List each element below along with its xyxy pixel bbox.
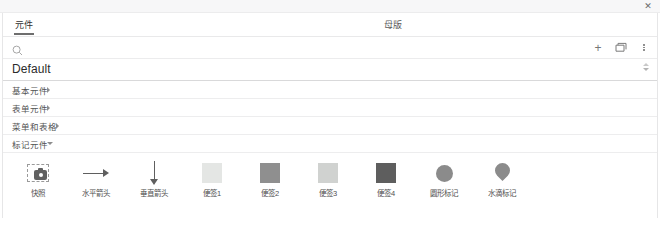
- sticky-note-icon: [197, 160, 227, 186]
- widget-sticky-note-4-label: 便签4: [377, 189, 395, 198]
- search-input[interactable]: [27, 40, 577, 55]
- widget-sticky-note-2-label: 便签2: [261, 189, 279, 198]
- more-dots: [643, 42, 645, 54]
- drop-marker-icon: [487, 160, 517, 186]
- category-forms[interactable]: 表单元件: [3, 99, 657, 117]
- arrow-right-icon: [81, 160, 111, 186]
- chevron-updown-icon[interactable]: [643, 63, 649, 71]
- tab-masters-label: 母版: [384, 20, 402, 30]
- category-menus-tables[interactable]: 菜单和表格: [3, 117, 657, 135]
- circle-marker-icon: [429, 160, 459, 186]
- component-library-window: ✕ 元件 母版 +: [0, 0, 660, 230]
- sticky-note-icon: [313, 160, 343, 186]
- plus-icon[interactable]: +: [591, 40, 605, 55]
- widget-drop-marker[interactable]: 水滴标记: [473, 160, 531, 208]
- search-icon: [12, 42, 23, 53]
- close-icon[interactable]: ✕: [641, 0, 655, 13]
- widget-sticky-note-4[interactable]: 便签4: [357, 160, 415, 208]
- chevron-down-icon: [47, 142, 53, 145]
- chevron-right-icon: [47, 105, 50, 111]
- more-vertical-icon[interactable]: [637, 40, 651, 55]
- tab-components[interactable]: 元件: [12, 16, 36, 34]
- widget-vertical-arrow-label: 垂直箭头: [140, 189, 168, 198]
- tab-components-label: 元件: [15, 20, 33, 30]
- chevron-up-icon: [643, 63, 649, 66]
- widget-drop-marker-label: 水滴标记: [488, 189, 516, 198]
- category-basic[interactable]: 基本元件: [3, 81, 657, 99]
- category-menus-tables-label: 菜单和表格: [12, 120, 57, 132]
- tab-bar: 元件 母版: [3, 13, 657, 37]
- widget-snapshot[interactable]: 快照: [9, 160, 67, 208]
- chevron-right-icon: [56, 123, 59, 129]
- widget-vertical-arrow[interactable]: 垂直箭头: [125, 160, 183, 208]
- snapshot-icon: [23, 160, 53, 186]
- widget-sticky-note-3[interactable]: 便签3: [299, 160, 357, 208]
- widget-snapshot-label: 快照: [31, 189, 45, 198]
- widget-sticky-note-1[interactable]: 便签1: [183, 160, 241, 208]
- widget-sticky-note-2[interactable]: 便签2: [241, 160, 299, 208]
- category-markup-label: 标记元件: [12, 138, 48, 150]
- category-forms-label: 表单元件: [12, 102, 48, 114]
- panel-footer: [3, 215, 657, 230]
- library-panel: 元件 母版 +: [2, 13, 658, 218]
- library-selector[interactable]: Default: [3, 59, 657, 81]
- chevron-down-icon: [643, 68, 649, 71]
- category-markup[interactable]: 标记元件: [3, 135, 657, 153]
- widget-grid: 快照 水平箭头 垂直箭头 便签1: [3, 153, 657, 215]
- widget-horizontal-arrow-label: 水平箭头: [82, 189, 110, 198]
- category-basic-label: 基本元件: [12, 84, 48, 96]
- tab-masters[interactable]: 母版: [381, 16, 405, 34]
- search-row: +: [3, 37, 657, 59]
- title-bar: ✕: [0, 0, 660, 13]
- sticky-note-icon: [371, 160, 401, 186]
- folder-library-icon[interactable]: [614, 40, 628, 55]
- widget-horizontal-arrow[interactable]: 水平箭头: [67, 160, 125, 208]
- chevron-right-icon: [47, 87, 50, 93]
- widget-circle-marker-label: 圆形标记: [430, 189, 458, 198]
- widget-circle-marker[interactable]: 圆形标记: [415, 160, 473, 208]
- library-toolbar: +: [591, 40, 651, 55]
- sticky-note-icon: [255, 160, 285, 186]
- arrow-down-icon: [139, 160, 169, 186]
- widget-sticky-note-3-label: 便签3: [319, 189, 337, 198]
- widget-sticky-note-1-label: 便签1: [203, 189, 221, 198]
- library-name: Default: [12, 62, 51, 76]
